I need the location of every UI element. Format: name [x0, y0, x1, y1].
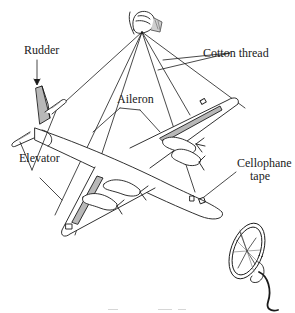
aileron-label: Aileron	[117, 93, 154, 106]
rudder-label: Rudder	[24, 44, 59, 57]
rudder	[36, 86, 50, 124]
caption-remnant	[108, 309, 118, 310]
caption-remnant	[178, 309, 186, 310]
elevator-label: Elevator	[19, 152, 60, 165]
tape-label: tape	[250, 170, 270, 183]
electric-fan	[222, 218, 278, 310]
cotton-thread-label: Cotton thread	[203, 47, 269, 60]
hand-icon	[129, 11, 162, 34]
fuselage	[35, 128, 223, 219]
caption-remnant	[158, 309, 172, 310]
